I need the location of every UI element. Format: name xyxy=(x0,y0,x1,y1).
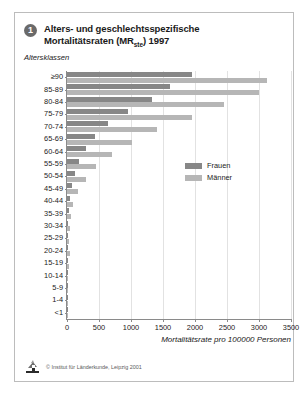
bar-frauen xyxy=(67,233,68,238)
y-axis-tick-label: 45-49 xyxy=(23,184,63,193)
x-axis-tick-label: 2500 xyxy=(219,323,235,332)
y-axis-tick-label: 80-84 xyxy=(23,97,63,106)
chart-row: 1-4 xyxy=(67,294,291,306)
bar-maenner xyxy=(67,288,68,293)
chart-row: <1 xyxy=(67,307,291,319)
y-axis-tick-label: 1-4 xyxy=(23,295,63,304)
bar-frauen xyxy=(67,72,192,77)
bar-frauen xyxy=(67,146,86,151)
bar-chart-plot-area: Mortalitätsrate pro 100000 Personen 0500… xyxy=(66,71,291,320)
chart-row: 75-79 xyxy=(67,108,291,120)
x-axis-tick xyxy=(227,319,228,322)
chart-row: 25-29 xyxy=(67,232,291,244)
bar-maenner xyxy=(67,189,78,194)
x-axis-tick-label: 1500 xyxy=(155,323,171,332)
bar-maenner xyxy=(67,202,73,207)
institute-logo-icon xyxy=(24,359,41,374)
chart-row: 60-64 xyxy=(67,145,291,157)
y-axis-tick-label: 25-29 xyxy=(23,233,63,242)
title-subscript: ste xyxy=(134,40,143,47)
bar-frauen xyxy=(67,270,68,275)
bar-frauen xyxy=(67,245,68,250)
bar-frauen xyxy=(67,208,69,213)
y-axis-tick-label: 10-14 xyxy=(23,271,63,280)
y-axis-tick-label: 5-9 xyxy=(23,283,63,292)
bar-maenner xyxy=(67,313,68,318)
bar-frauen xyxy=(67,196,70,201)
legend-swatch-maenner xyxy=(185,175,202,181)
bar-maenner xyxy=(67,140,132,145)
bar-frauen xyxy=(67,295,68,300)
x-axis-tick-label: 1000 xyxy=(123,323,139,332)
y-axis-tick-label: 75-79 xyxy=(23,109,63,118)
bar-maenner xyxy=(67,102,224,107)
bar-maenner xyxy=(67,78,267,83)
y-axis-tick-label: 60-64 xyxy=(23,147,63,156)
chart-row: 85-89 xyxy=(67,83,291,95)
bar-maenner xyxy=(67,115,192,120)
chart-row: 50-54 xyxy=(67,170,291,182)
bar-frauen xyxy=(67,258,68,263)
chart-row: 30-34 xyxy=(67,220,291,232)
bar-maenner xyxy=(67,177,86,182)
x-axis-tick-label: 3000 xyxy=(251,323,267,332)
x-axis-tick xyxy=(67,319,68,322)
legend-item-frauen: Frauen xyxy=(185,161,232,170)
chart-row: 15-19 xyxy=(67,257,291,269)
bar-frauen xyxy=(67,171,75,176)
y-axis-caption: Altersklassen xyxy=(24,53,69,62)
title-line-2-prefix: Mortalitätsraten (MR xyxy=(44,35,134,46)
y-axis-tick-label: 40-44 xyxy=(23,196,63,205)
chart-card: 1 Alters- und geschlechtsspezifische Mor… xyxy=(14,12,294,382)
chart-row: 20-24 xyxy=(67,245,291,257)
chart-legend: Frauen Männer xyxy=(185,161,232,185)
y-axis-tick-label: 50-54 xyxy=(23,171,63,180)
bar-frauen xyxy=(67,121,108,126)
bar-maenner xyxy=(67,214,71,219)
bar-frauen xyxy=(67,97,152,102)
chart-row: 40-44 xyxy=(67,195,291,207)
legend-item-maenner: Männer xyxy=(185,173,232,182)
x-axis-tick xyxy=(99,319,100,322)
x-axis-tick xyxy=(163,319,164,322)
y-axis-tick-label: ≥90 xyxy=(23,72,63,81)
legend-label-maenner: Männer xyxy=(207,173,232,182)
copyright-text: © Institut für Länderkunde, Leipzig 2001 xyxy=(46,364,142,370)
x-gridline xyxy=(291,71,292,319)
chart-row: 45-49 xyxy=(67,183,291,195)
bar-frauen xyxy=(67,183,72,188)
chart-row: 55-59 xyxy=(67,158,291,170)
bar-maenner xyxy=(67,127,157,132)
bar-maenner xyxy=(67,264,69,269)
x-axis-tick xyxy=(195,319,196,322)
bar-frauen xyxy=(67,84,170,89)
chart-row: 5-9 xyxy=(67,282,291,294)
y-axis-tick-label: 15-19 xyxy=(23,258,63,267)
y-axis-tick-label: 55-59 xyxy=(23,159,63,168)
bar-frauen xyxy=(67,283,68,288)
bar-frauen xyxy=(67,221,68,226)
x-axis-tick xyxy=(291,319,292,322)
y-axis-tick-label: 20-24 xyxy=(23,246,63,255)
x-axis-tick xyxy=(131,319,132,322)
bar-frauen xyxy=(67,109,128,114)
x-axis-tick-label: 500 xyxy=(93,323,105,332)
y-axis-tick-label: 30-34 xyxy=(23,221,63,230)
x-axis-tick-label: 0 xyxy=(65,323,69,332)
y-axis-tick-label: 65-69 xyxy=(23,134,63,143)
bar-maenner xyxy=(67,276,68,281)
y-axis-tick-label: 85-89 xyxy=(23,85,63,94)
chart-row: 70-74 xyxy=(67,121,291,133)
page-title: Alters- und geschlechtsspezifische Morta… xyxy=(44,23,200,50)
bar-maenner xyxy=(67,90,259,95)
chart-row: 65-69 xyxy=(67,133,291,145)
chart-row: 10-14 xyxy=(67,269,291,281)
x-axis-tick-label: 3500 xyxy=(283,323,299,332)
bar-maenner xyxy=(67,152,112,157)
chart-row: 35-39 xyxy=(67,207,291,219)
x-axis-tick-label: 2000 xyxy=(187,323,203,332)
bar-frauen xyxy=(67,159,79,164)
chart-footer: © Institut für Länderkunde, Leipzig 2001 xyxy=(24,359,142,374)
legend-swatch-frauen xyxy=(185,163,202,169)
x-axis-title: Mortalitätsrate pro 100000 Personen xyxy=(67,335,291,344)
